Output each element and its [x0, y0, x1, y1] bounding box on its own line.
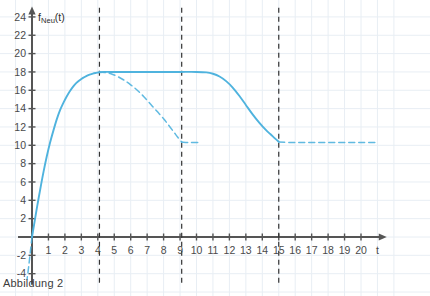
y-tick-label: -2 [17, 249, 26, 261]
figure-container: 1234567891011121314151617181920-4-224681… [0, 0, 430, 296]
x-tick-label: 1 [46, 244, 52, 256]
y-tick-label: 2 [20, 212, 26, 224]
x-tick-label: 11 [207, 244, 218, 256]
x-tick-label: 15 [273, 244, 285, 256]
x-tick-label: 16 [289, 244, 301, 256]
y-tick-label: 16 [14, 84, 26, 96]
curve-f-neu-solid [32, 72, 279, 237]
x-tick-label: 5 [111, 244, 117, 256]
x-tick-label: 12 [224, 244, 236, 256]
x-tick-label: 7 [144, 244, 150, 256]
x-tick-label: 2 [62, 244, 68, 256]
x-tick-label: 20 [355, 244, 367, 256]
x-tick-label: 14 [256, 244, 268, 256]
y-tick-label: 10 [14, 139, 26, 151]
y-tick-label: 18 [14, 66, 26, 78]
x-tick-label: 6 [128, 244, 134, 256]
x-tick-label: 10 [191, 244, 203, 256]
x-tick-label: 8 [161, 244, 167, 256]
x-tick-label: 13 [240, 244, 252, 256]
x-tick-label: 9 [177, 244, 183, 256]
y-tick-label: 24 [14, 11, 26, 23]
curve-f-neu-branch-dashed [99, 72, 181, 142]
x-tick-label: 17 [306, 244, 318, 256]
y-tick-label: 6 [20, 176, 26, 188]
x-tick-label: 4 [95, 244, 101, 256]
y-axis-title: fNeu(t) [38, 11, 65, 26]
y-tick-label: 22 [14, 29, 26, 41]
y-axis-arrow [28, 6, 35, 14]
x-tick-label: 3 [78, 244, 84, 256]
x-tick-label: 19 [339, 244, 351, 256]
y-tick-label: 20 [14, 47, 26, 59]
y-tick-label: 14 [14, 102, 26, 114]
y-tick-label: 12 [14, 121, 26, 133]
y-tick-label: 4 [20, 194, 26, 206]
function-plot: 1234567891011121314151617181920-4-224681… [0, 0, 430, 296]
x-axis-arrow [379, 233, 387, 240]
x-axis-title: t [376, 244, 379, 256]
figure-caption: Abbildung 2 [3, 277, 63, 289]
y-tick-label: 8 [20, 157, 26, 169]
x-tick-label: 18 [322, 244, 334, 256]
